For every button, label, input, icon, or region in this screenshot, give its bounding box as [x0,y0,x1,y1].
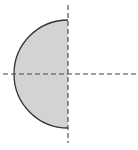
semicircle-diagram [0,0,138,150]
